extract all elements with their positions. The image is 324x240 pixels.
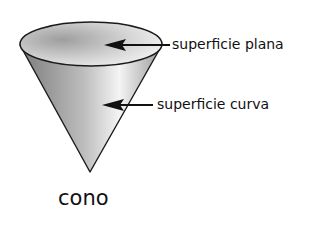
shape-title: cono (58, 186, 109, 210)
flat-surface-label: superficie plana (172, 36, 284, 52)
curved-surface-label: superficie curva (157, 96, 269, 112)
